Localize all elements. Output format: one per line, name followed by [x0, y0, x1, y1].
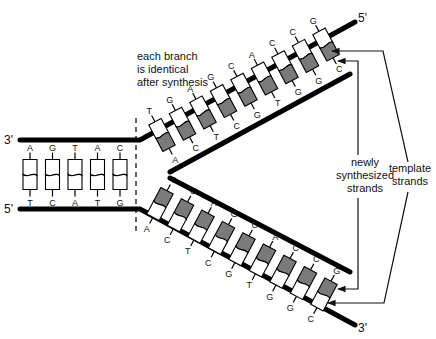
base-label: T [185, 246, 191, 256]
base-label: T [275, 98, 281, 108]
parent-base-pairs: ATGCTAATCG [23, 143, 127, 208]
base-label: C [164, 235, 171, 245]
base-label: G [49, 143, 56, 153]
base-label: T [247, 280, 253, 290]
base-label: C [336, 64, 343, 74]
base-label: G [295, 87, 302, 97]
base-label: C [313, 254, 320, 264]
arrow-template-lower [328, 192, 408, 303]
base-label: C [192, 143, 199, 153]
end-label-parent-bottom: 5' [4, 202, 13, 216]
base-label: G [231, 209, 238, 219]
branch-note: each branch is identical after synthesis [137, 50, 208, 88]
base-label: G [266, 292, 273, 302]
base-label: C [308, 314, 315, 324]
base-label: A [249, 50, 255, 60]
parent-base-pair: AT [23, 143, 37, 208]
base-label: C [205, 258, 212, 268]
arrow-template-upper [332, 51, 408, 162]
base-label: T [213, 132, 219, 142]
base-label: C [49, 198, 56, 208]
base-label: C [269, 38, 276, 48]
arrow-new-lower [338, 198, 358, 289]
base-label: G [310, 16, 317, 26]
parent-base-pair: CG [113, 143, 127, 208]
note-line-1: each branch [137, 50, 198, 62]
base-label: G [225, 269, 232, 279]
base-label: T [95, 198, 101, 208]
base-label: A [211, 198, 217, 208]
parent-base-pair: GC [46, 143, 60, 208]
base-label: G [166, 95, 173, 105]
lower-branch-base-pairs: TAGCATGCCGATCGCGGC [138, 172, 346, 328]
base-label: C [233, 121, 240, 131]
base-label: A [72, 198, 78, 208]
note-line-3: after synthesis [137, 76, 208, 88]
base-label: C [117, 143, 124, 153]
end-label-lower: 3' [358, 321, 367, 335]
base-label: G [116, 198, 123, 208]
base-label: T [170, 175, 176, 185]
base-label: C [292, 243, 299, 253]
base-label: G [333, 266, 340, 276]
base-label: G [190, 186, 197, 196]
base-label: T [27, 198, 33, 208]
base-label: A [272, 232, 278, 242]
base-label: G [207, 72, 214, 82]
new-strands-line-2: synthesized [336, 169, 394, 181]
new-strands-line-3: strands [347, 182, 384, 194]
new-strands-callout: newly synthesized strands [336, 61, 394, 289]
replication-fork-diagram: 3' 5' 5' 3' ATGCTAATCG TAGCATGCCGATCGCGG… [0, 0, 436, 339]
base-label: A [94, 143, 100, 153]
base-label: C [251, 220, 258, 230]
template-line-2: strands [392, 175, 429, 187]
base-label: A [27, 143, 33, 153]
parent-base-pair: AT [91, 143, 105, 208]
new-strands-line-1: newly [351, 156, 380, 168]
base-label: G [315, 76, 322, 86]
base-label: T [147, 106, 153, 116]
base-label: T [72, 143, 78, 153]
end-label-upper: 5' [358, 11, 367, 25]
base-label: G [254, 110, 261, 120]
base-label: C [290, 27, 297, 37]
base-label: A [172, 155, 178, 165]
note-line-2: is identical [137, 63, 188, 75]
base-label: C [228, 61, 235, 71]
base-label: A [144, 224, 150, 234]
new-strand-upper [170, 74, 350, 172]
base-label: G [287, 303, 294, 313]
parent-base-pair: TA [68, 143, 82, 208]
end-label-parent-top: 3' [4, 133, 13, 147]
template-line-1: template [389, 162, 431, 174]
